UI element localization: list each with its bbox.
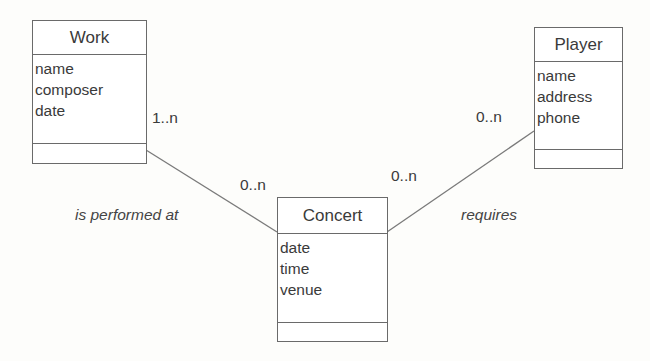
attribute: name — [537, 65, 622, 86]
class-work[interactable]: Work name composer date — [32, 20, 147, 164]
class-work-attributes: name composer date — [33, 55, 146, 144]
attribute: phone — [537, 107, 622, 128]
class-player-attributes: name address phone — [535, 62, 622, 150]
association-label-performed-at: is performed at — [75, 206, 178, 224]
class-concert-name: Concert — [278, 198, 387, 234]
multiplicity-player: 0..n — [476, 108, 502, 126]
class-concert-attributes: date time venue — [278, 234, 387, 323]
multiplicity-concert-player-side: 0..n — [391, 167, 417, 185]
attribute: composer — [35, 79, 146, 100]
association-label-requires: requires — [461, 206, 517, 224]
class-concert[interactable]: Concert date time venue — [277, 197, 388, 342]
attribute: date — [35, 100, 146, 121]
class-player-name: Player — [535, 28, 622, 62]
multiplicity-concert-work-side: 0..n — [240, 176, 266, 194]
attribute: venue — [280, 279, 387, 300]
class-player[interactable]: Player name address phone — [534, 27, 623, 169]
multiplicity-work: 1..n — [152, 109, 178, 127]
class-work-name: Work — [33, 21, 146, 55]
attribute: name — [35, 58, 146, 79]
attribute: date — [280, 237, 387, 258]
attribute: address — [537, 86, 622, 107]
attribute: time — [280, 258, 387, 279]
